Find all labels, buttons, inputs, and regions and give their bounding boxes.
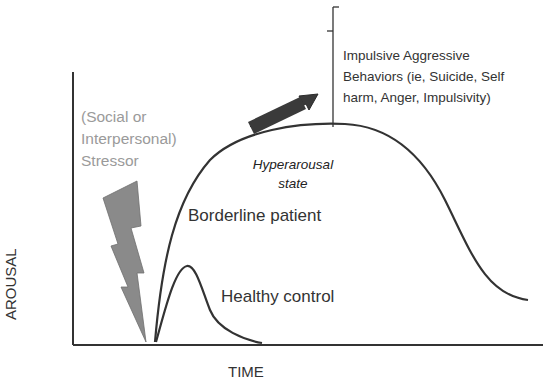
impulsive-line-3: harm, Anger, Impulsivity) bbox=[343, 87, 504, 108]
stressor-label: (Social or Interpersonal) Stressor bbox=[81, 106, 177, 172]
y-axis-label: AROUSAL bbox=[2, 248, 19, 320]
impulsive-behaviors-label: Impulsive Aggressive Behaviors (ie, Suic… bbox=[343, 45, 504, 108]
behaviors-bracket bbox=[327, 7, 339, 127]
stressor-line-3: Stressor bbox=[81, 150, 177, 172]
hyperarousal-line-2: state bbox=[238, 174, 348, 193]
stressor-line-2: Interpersonal) bbox=[81, 128, 177, 150]
hyperarousal-line-1: Hyperarousal bbox=[238, 155, 348, 174]
lightning-bolt-icon bbox=[103, 181, 146, 342]
hyperarousal-label: Hyperarousal state bbox=[238, 155, 348, 193]
impulsive-line-1: Impulsive Aggressive bbox=[343, 45, 504, 66]
impulsive-line-2: Behaviors (ie, Suicide, Self bbox=[343, 66, 504, 87]
healthy-control-label: Healthy control bbox=[221, 287, 334, 307]
stressor-line-1: (Social or bbox=[81, 106, 177, 128]
borderline-patient-label: Borderline patient bbox=[188, 206, 321, 226]
x-axis-label: TIME bbox=[228, 363, 264, 380]
